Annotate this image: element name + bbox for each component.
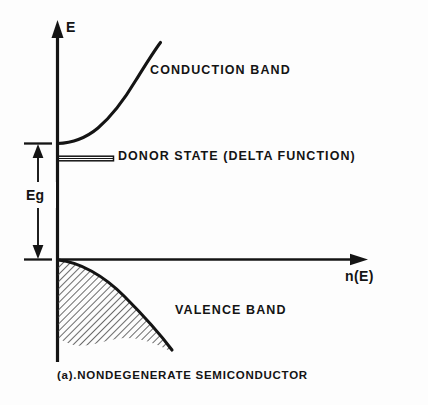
band-diagram-svg [0, 0, 428, 405]
valence-band-region [50, 250, 190, 365]
x-axis-label: n(E) [345, 269, 374, 283]
valence-band-label: VALENCE BAND [175, 304, 287, 317]
x-axis-density [58, 254, 369, 265]
donor-state-label: DONOR STATE (DELTA FUNCTION) [118, 150, 356, 163]
y-axis-label: E [66, 20, 76, 34]
figure-caption: (a).NONDEGENERATE SEMICONDUCTOR [57, 370, 308, 382]
donor-state-marker [58, 156, 114, 161]
conduction-band-label: CONDUCTION BAND [150, 64, 291, 77]
figure-root: E n(E) CONDUCTION BAND DONOR STATE (DELT… [0, 0, 428, 405]
conduction-band-curve [58, 43, 161, 144]
band-gap-label: Eg [26, 188, 44, 202]
